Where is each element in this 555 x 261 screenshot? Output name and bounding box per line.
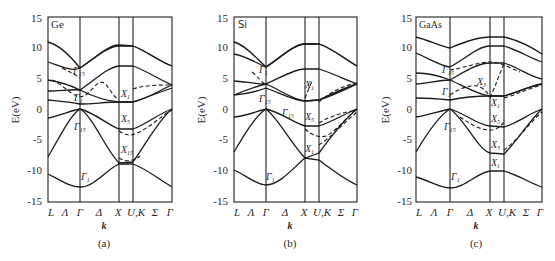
x-tick: Λ bbox=[430, 206, 438, 218]
y-tick-labels: 15 10 5 0 -5 -10 -15 bbox=[397, 12, 412, 207]
annotation: Γ1 bbox=[265, 171, 275, 183]
band-structure-figure: 15 10 5 0 -5 -10 -15 E(eV) L Λ Γ Δ X U,K… bbox=[0, 0, 555, 261]
annotation: X3 bbox=[476, 76, 486, 88]
y-tick: 15 bbox=[31, 12, 43, 24]
x-tick: Σ bbox=[151, 206, 159, 218]
x-tick: Σ bbox=[337, 206, 345, 218]
material-label: GaAs bbox=[419, 19, 442, 30]
x-tick-labels: L Λ Γ Δ X U,K Σ Γ bbox=[415, 206, 544, 218]
x-tick: L bbox=[47, 206, 54, 218]
x-tick: Γ bbox=[262, 206, 270, 218]
x-tick: Λ bbox=[247, 206, 255, 218]
y-tick: 0 bbox=[223, 103, 229, 115]
panel-sublabel: (b) bbox=[284, 237, 297, 250]
x-tick: Γ bbox=[76, 206, 84, 218]
x-tick-labels: L Λ Γ Δ X U,K Σ Γ bbox=[233, 206, 359, 218]
band-curves bbox=[416, 37, 542, 188]
x-tick: X bbox=[114, 206, 123, 218]
y-tick: -5 bbox=[33, 133, 43, 145]
x-tick: Δ bbox=[466, 206, 473, 218]
annotation: X5 bbox=[490, 113, 500, 125]
y-tick: 5 bbox=[223, 72, 229, 84]
y-tick: 0 bbox=[407, 103, 413, 115]
annotation: X1 bbox=[304, 79, 314, 91]
y-tick-labels: 15 10 5 0 -5 -10 -15 bbox=[27, 12, 42, 207]
x-axis-label: k bbox=[102, 220, 107, 231]
y-tick: 0 bbox=[37, 103, 43, 115]
y-tick: 5 bbox=[37, 72, 43, 84]
annotation: Γ1 bbox=[441, 86, 451, 98]
x-tick: Δ bbox=[95, 206, 102, 218]
annotation: X5 bbox=[304, 111, 314, 123]
y-tick: -15 bbox=[213, 195, 228, 207]
annotation: Γ15 bbox=[281, 107, 294, 119]
y-tick: 15 bbox=[401, 12, 413, 24]
x-tick: Γ bbox=[446, 206, 454, 218]
annotation: X1 bbox=[120, 88, 130, 100]
x-axis-label: k bbox=[288, 220, 293, 231]
x-tick: X bbox=[485, 206, 494, 218]
annotation: Γ1 bbox=[450, 171, 460, 183]
x-tick-labels: L Λ Γ Δ X U,K Σ Γ bbox=[47, 206, 174, 218]
y-axis-label: E(eV) bbox=[195, 96, 208, 123]
annotation: X1 bbox=[304, 143, 314, 155]
panel-sublabel: (a) bbox=[98, 237, 111, 250]
x-tick: X bbox=[300, 206, 309, 218]
x-tick: U,K bbox=[127, 206, 146, 218]
x-tick: Γ bbox=[351, 206, 359, 218]
annotation: X5 bbox=[120, 113, 130, 125]
y-tick: -10 bbox=[397, 164, 412, 176]
y-tick: 15 bbox=[217, 12, 229, 24]
y-tick: 10 bbox=[401, 41, 413, 53]
x-tick: L bbox=[233, 206, 240, 218]
annotation: Γ1 bbox=[73, 92, 83, 104]
annotation: Γ15 bbox=[258, 93, 271, 105]
x-tick: Σ bbox=[522, 206, 530, 218]
x-tick: U,K bbox=[313, 206, 332, 218]
y-tick: 10 bbox=[217, 41, 229, 53]
annotation: Γ1 bbox=[80, 171, 90, 183]
x-tick: Δ bbox=[281, 206, 288, 218]
annotation: X3 bbox=[490, 139, 500, 151]
y-axis-label: E(eV) bbox=[9, 96, 22, 123]
annotation: X15 bbox=[120, 144, 133, 156]
annotation: Γ15 bbox=[443, 121, 456, 133]
material-label: Ge bbox=[51, 18, 64, 30]
y-tick: -5 bbox=[219, 133, 229, 145]
annotation: X1 bbox=[490, 97, 500, 109]
x-tick: Γ bbox=[166, 206, 174, 218]
band-curves bbox=[48, 42, 172, 187]
panel-si: 15 10 5 0 -5 -10 -15 E(eV) L Λ Γ Δ X U,K… bbox=[195, 12, 359, 250]
annotation: X1 bbox=[490, 157, 500, 169]
y-axis-label: E(eV) bbox=[379, 96, 392, 123]
annotation: Γ15 bbox=[73, 121, 86, 133]
y-tick: -10 bbox=[27, 164, 42, 176]
y-tick: -10 bbox=[213, 164, 228, 176]
y-tick: 5 bbox=[407, 72, 413, 84]
x-tick: U,K bbox=[498, 206, 517, 218]
panel-sublabel: (c) bbox=[470, 237, 483, 250]
y-tick: -15 bbox=[27, 195, 42, 207]
y-tick: -15 bbox=[397, 195, 412, 207]
x-tick: Γ bbox=[536, 206, 544, 218]
material-label: Si bbox=[238, 19, 247, 30]
panel-ge: 15 10 5 0 -5 -10 -15 E(eV) L Λ Γ Δ X U,K… bbox=[9, 12, 174, 250]
y-tick: 10 bbox=[31, 41, 43, 53]
x-tick: Λ bbox=[61, 206, 69, 218]
x-axis-label: k bbox=[474, 220, 479, 231]
y-tick: -5 bbox=[403, 133, 413, 145]
panel-gaas: 15 10 5 0 -5 -10 -15 E(eV) L Λ Γ Δ X U,K… bbox=[379, 12, 544, 250]
band-curves bbox=[234, 42, 357, 185]
plot-frame bbox=[416, 17, 542, 202]
y-tick-labels: 15 10 5 0 -5 -10 -15 bbox=[213, 12, 228, 207]
x-tick: L bbox=[415, 206, 422, 218]
